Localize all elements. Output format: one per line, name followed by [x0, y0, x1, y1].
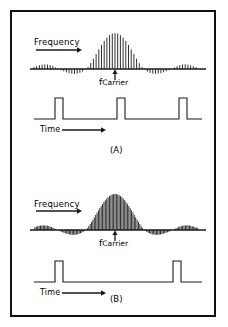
- figure-border: Frequency fCarrier Time (A) Frequency fC…: [10, 10, 216, 317]
- figure-root: Frequency fCarrier Time (A) Frequency fC…: [0, 0, 228, 327]
- panel-b-time-label: Time: [40, 288, 60, 297]
- carrier-arrow-head: [112, 70, 117, 75]
- frequency-arrow-a-head: [77, 47, 82, 53]
- panel-a-carrier-subscript: Carrier: [102, 78, 128, 87]
- time-arrow-b-head: [101, 290, 106, 296]
- panel-b-frequency-label: Frequency: [34, 199, 80, 209]
- frequency-arrow-b-head: [77, 208, 82, 214]
- panel-b-tag: (B): [110, 294, 122, 304]
- carrier-arrow-head: [112, 231, 117, 236]
- panel-a-frequency-label: Frequency: [34, 37, 80, 47]
- panel-a-plot: [12, 12, 218, 165]
- panel-a-tag: (A): [110, 145, 122, 155]
- panel-a-time-label: Time: [40, 125, 60, 134]
- panel-b-carrier-label: fCarrier: [99, 237, 128, 248]
- time-arrow-a-head: [101, 127, 106, 133]
- panel-a-svg: [12, 12, 218, 164]
- panel-b-carrier-subscript: Carrier: [102, 239, 128, 248]
- panel-a: Frequency fCarrier Time (A): [12, 12, 218, 164]
- panel-b: Frequency fCarrier Time (B): [12, 164, 218, 317]
- pulse-train-trace: [34, 261, 202, 282]
- pulse-train-trace: [34, 98, 202, 119]
- panel-a-carrier-label: fCarrier: [99, 76, 128, 87]
